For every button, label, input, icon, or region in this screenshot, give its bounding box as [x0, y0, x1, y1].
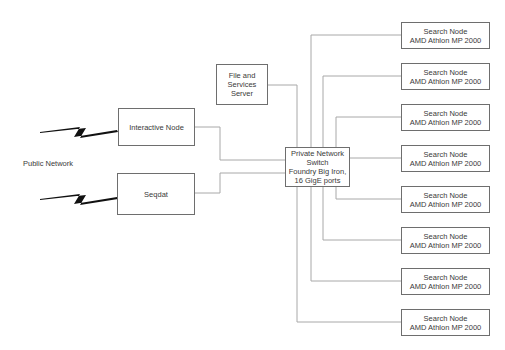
search-node-2: Search Node AMD Athlon MP 2000	[401, 63, 490, 90]
search-node-8: Search Node AMD Athlon MP 2000	[401, 309, 490, 336]
search-node-6: Search Node AMD Athlon MP 2000	[401, 227, 490, 254]
search-node-5: Search Node AMD Athlon MP 2000	[401, 186, 490, 213]
search-node-4: Search Node AMD Athlon MP 2000	[401, 145, 490, 172]
private-network-switch-box: Private Network Switch Foundry Big Iron,…	[285, 147, 350, 187]
seqdat-box: Seqdat	[117, 173, 195, 215]
search-node-7: Search Node AMD Athlon MP 2000	[401, 268, 490, 295]
file-server-box: File and Services Server	[216, 64, 268, 105]
search-node-1: Search Node AMD Athlon MP 2000	[401, 22, 490, 49]
public-network-label: Public Network	[23, 159, 73, 168]
lightning-bolt-icon	[40, 127, 118, 138]
search-node-3: Search Node AMD Athlon MP 2000	[401, 104, 490, 131]
interactive-node-box: Interactive Node	[118, 108, 195, 146]
connection-lines	[0, 0, 505, 350]
lightning-bolt-icon	[40, 194, 118, 205]
